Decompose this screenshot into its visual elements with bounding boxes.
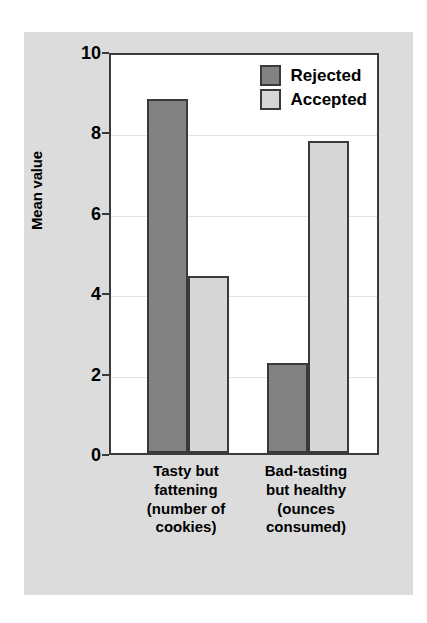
y-tick-label-4: 4: [61, 285, 101, 303]
x-category-label-2: Bad-tastingbut healthy(ouncesconsumed): [236, 462, 376, 537]
legend-label-accepted: Accepted: [290, 91, 367, 108]
y-tick-label-10: 10: [61, 44, 101, 62]
y-tick-mark: [102, 132, 109, 134]
bar-accepted-group-2[interactable]: [308, 141, 349, 453]
legend-item-accepted[interactable]: Accepted: [260, 89, 367, 110]
x-category-line: consumed): [236, 518, 376, 537]
y-tick-label-2: 2: [61, 366, 101, 384]
legend-swatch-accepted: [260, 89, 281, 110]
legend-item-rejected[interactable]: Rejected: [260, 65, 367, 86]
y-tick-label-6: 6: [61, 205, 101, 223]
bar-rejected-group-1[interactable]: [147, 99, 188, 453]
y-tick-mark: [102, 293, 109, 295]
y-tick-label-8: 8: [61, 124, 101, 142]
legend-swatch-rejected: [260, 65, 281, 86]
legend: Rejected Accepted: [260, 65, 367, 113]
x-category-line: but healthy: [236, 481, 376, 500]
x-category-line: (number of: [116, 500, 256, 519]
y-tick-mark: [102, 213, 109, 215]
x-category-label-1: Tasty butfattening(number ofcookies): [116, 462, 256, 537]
x-category-line: Bad-tasting: [236, 462, 376, 481]
x-category-line: fattening: [116, 481, 256, 500]
figure-panel: Mean value 1086420 Rejected Accepted Tas…: [24, 32, 413, 595]
y-tick-mark: [102, 454, 109, 456]
x-category-line: cookies): [116, 518, 256, 537]
y-tick-mark: [102, 374, 109, 376]
bar-rejected-group-2[interactable]: [267, 363, 308, 453]
plot-area: Rejected Accepted: [109, 53, 379, 455]
y-tick-label-0: 0: [61, 446, 101, 464]
y-tick-mark: [102, 52, 109, 54]
legend-label-rejected: Rejected: [290, 67, 361, 84]
y-axis-title: Mean value: [28, 121, 45, 261]
x-category-line: (ounces: [236, 500, 376, 519]
bar-accepted-group-1[interactable]: [188, 276, 229, 453]
x-category-line: Tasty but: [116, 462, 256, 481]
